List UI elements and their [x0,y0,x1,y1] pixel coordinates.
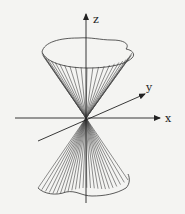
lower-cone-rulings [38,118,128,193]
y-axis-label: y [145,81,153,94]
double-cone-diagram: z x y [0,0,185,214]
x-axis-label: x [165,112,172,125]
upper-cone-rim [42,38,134,68]
z-axis-label: z [93,13,99,26]
